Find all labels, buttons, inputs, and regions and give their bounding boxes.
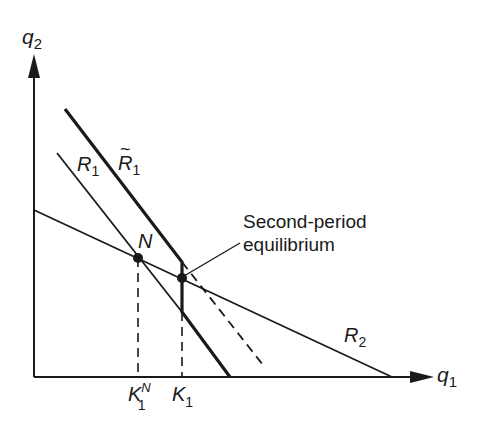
x-axis-label: q1 [437,363,457,390]
r1-tilde-dashed-extension [182,262,263,365]
r1-label: R1 [77,153,99,179]
axes [28,54,434,383]
nash-label: N [138,230,153,252]
y-axis-arrow-icon [28,54,40,78]
r2-label: R2 [344,324,366,350]
reaction-function-diagram: q2 q1 R2 R1 R1 ~ KN1 K1 N Second-period … [0,0,481,427]
x-axis-arrow-icon [410,371,434,383]
nash-point [133,253,143,263]
second-period-label-line2: equilibrium [243,234,335,255]
equilibrium-leader-line [184,243,240,276]
k1-tick-label: K1 [172,383,193,410]
second-period-label-line1: Second-period [243,211,367,232]
r1-tilde-accent: ~ [120,139,131,159]
r1-line [57,153,182,312]
y-axis-label: q2 [22,25,42,52]
k1n-tick-label: KN1 [128,380,151,413]
